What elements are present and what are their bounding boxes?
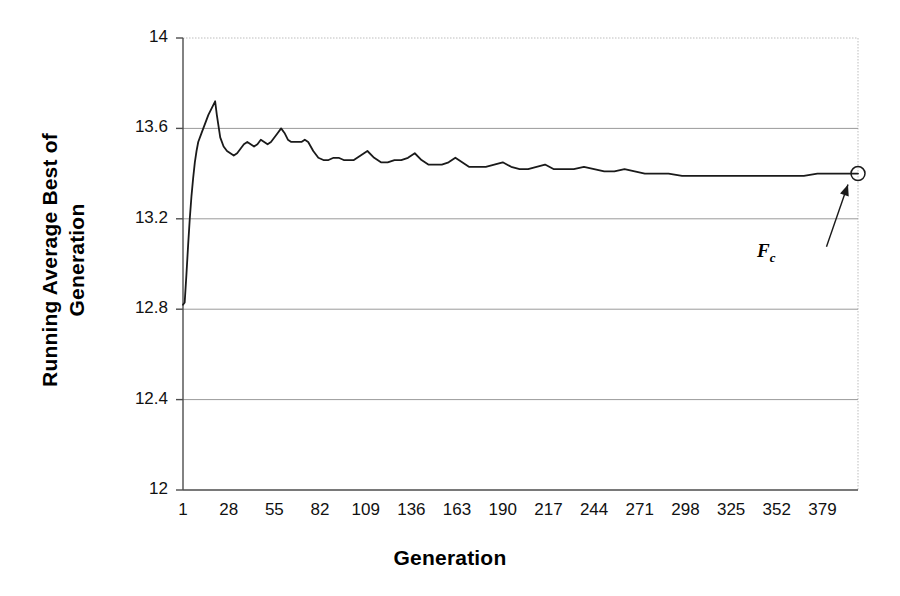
x-tick-label: 379: [792, 500, 852, 520]
y-tick-label: 14: [98, 27, 168, 47]
fc-annotation-symbol: F: [757, 240, 770, 261]
y-tick-label: 12.8: [98, 298, 168, 318]
chart-figure: Running Average Best of Generation Gener…: [0, 0, 900, 596]
fc-annotation-subscript: c: [770, 250, 776, 265]
y-tick-label: 13.2: [98, 208, 168, 228]
y-tick-label: 13.6: [98, 117, 168, 137]
y-tick-label: 12: [98, 479, 168, 499]
x-axis-title: Generation: [0, 546, 900, 570]
fc-annotation-arrow-head: [840, 185, 849, 197]
fc-annotation-label: Fc: [757, 240, 775, 266]
data-line-running-average: [183, 101, 858, 304]
y-tick-label: 12.4: [98, 389, 168, 409]
